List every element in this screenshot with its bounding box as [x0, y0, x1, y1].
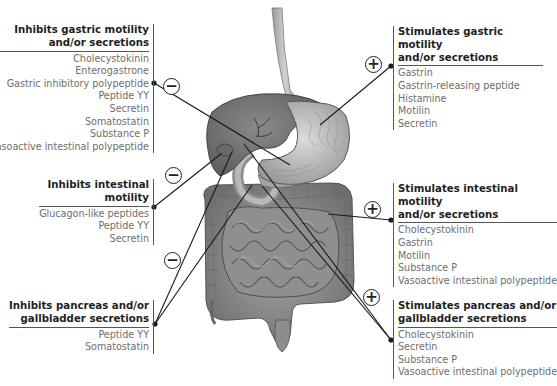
box-title: Stimulates gastric motility and/or secre… — [398, 26, 543, 66]
stimulate-sign-intestinal: + — [364, 201, 381, 218]
hormone-item: Somatostatin — [0, 116, 149, 129]
inhibit-sign-gastric: − — [163, 78, 180, 95]
hormone-item: Substance P — [0, 128, 149, 141]
inhibits-intestinal-box: Inhibits intestinal motility Glucagon-li… — [39, 179, 154, 245]
hormone-item: Cholecystokinin — [398, 329, 557, 342]
hormone-item: Vasoactive intestinal polypeptide — [398, 366, 557, 379]
stimulate-sign-gastric: + — [365, 56, 382, 73]
plus-icon: + — [365, 202, 380, 217]
hormone-item: Secretin — [398, 341, 557, 354]
inhibit-sign-pancreas: − — [164, 252, 181, 269]
minus-icon: − — [165, 253, 180, 268]
rectum — [275, 320, 290, 352]
plus-icon: + — [364, 290, 379, 305]
stimulate-sign-pancreas: + — [363, 289, 380, 306]
hormone-item: Motilin — [398, 250, 557, 263]
hormone-item: Somatostatin — [9, 341, 149, 354]
hormone-item: Substance P — [398, 354, 557, 367]
box-title: Inhibits intestinal motility — [39, 179, 149, 207]
stimulates-gastric-box: Stimulates gastric motility and/or secre… — [393, 26, 543, 130]
box-title: Inhibits pancreas and/or gallbladder sec… — [9, 300, 149, 328]
small-intestine — [222, 207, 339, 298]
hormone-item: Vasoactive intestinal polypeptide — [398, 275, 557, 288]
hormone-item: Secretin — [398, 118, 543, 131]
hormone-list: Cholecystokinin Gastrin Motilin Substanc… — [398, 224, 557, 287]
minus-icon: − — [166, 168, 181, 183]
box-title: Stimulates intestinal motility and/or se… — [398, 183, 557, 223]
hormone-list: Peptide YY Somatostatin — [9, 329, 149, 354]
hormone-list: Gastrin Gastrin-releasing peptide Histam… — [398, 67, 543, 130]
hormone-item: Peptide YY — [39, 220, 149, 233]
box-title: Stimulates pancreas and/or gallbladder s… — [398, 300, 557, 328]
hormone-item: Cholecystokinin — [0, 53, 149, 66]
hormone-item: Peptide YY — [9, 329, 149, 342]
hormone-item: Peptide YY — [0, 90, 149, 103]
hormone-item: Substance P — [398, 262, 557, 275]
hormone-item: Enterogastrone — [0, 65, 149, 78]
inhibits-gastric-box: Inhibits gastric motility and/or secreti… — [0, 24, 154, 153]
hormone-item: Vasoactive intestinal polypeptide — [0, 141, 149, 154]
hormone-item: Histamine — [398, 93, 543, 106]
hormone-item: Gastrin — [398, 67, 543, 80]
plus-icon: + — [366, 57, 381, 72]
stimulates-intestinal-box: Stimulates intestinal motility and/or se… — [393, 183, 557, 287]
hormone-list: Cholecystokinin Enterogastrone Gastric i… — [0, 53, 149, 154]
hormone-list: Glucagon-like peptides Peptide YY Secret… — [39, 208, 149, 246]
hormone-item: Cholecystokinin — [398, 224, 557, 237]
esophagus — [272, 8, 298, 104]
hormone-item: Gastrin — [398, 237, 557, 250]
hormone-item: Gastrin-releasing peptide — [398, 80, 543, 93]
hormone-item: Glucagon-like peptides — [39, 208, 149, 221]
hormone-item: Gastric inhibitory polypeptide — [0, 78, 149, 91]
inhibit-sign-intestinal: − — [165, 167, 182, 184]
hormone-list: Cholecystokinin Secretin Substance P Vas… — [398, 329, 557, 379]
hormone-item: Secretin — [0, 103, 149, 116]
hormone-item: Secretin — [39, 233, 149, 246]
box-title: Inhibits gastric motility and/or secreti… — [0, 24, 149, 52]
minus-icon: − — [164, 79, 179, 94]
connector-stimulates-gastric — [320, 66, 391, 125]
inhibits-pancreas-box: Inhibits pancreas and/or gallbladder sec… — [9, 300, 154, 354]
hormone-item: Motilin — [398, 105, 543, 118]
stimulates-pancreas-box: Stimulates pancreas and/or gallbladder s… — [393, 300, 557, 379]
